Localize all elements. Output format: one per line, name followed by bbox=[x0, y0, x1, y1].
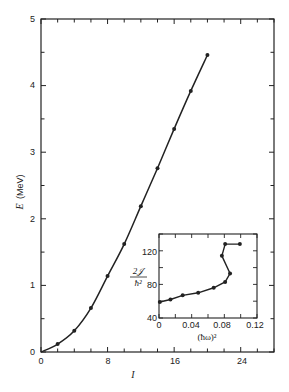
inset-x-tick-008: 0.08 bbox=[213, 320, 231, 330]
y-tick-3: 3 bbox=[30, 147, 35, 157]
inset-data-point bbox=[212, 286, 216, 290]
x-tick-0: 0 bbox=[38, 356, 43, 366]
inset-y-tick-80: 80 bbox=[147, 280, 157, 290]
main-data-point bbox=[72, 329, 76, 333]
inset-frame bbox=[159, 234, 257, 318]
chart-canvas: 0 8 16 24 0 1 2 3 4 5 I E (MeV) 0 0.04 0… bbox=[0, 0, 289, 392]
inset-y-tick-120: 120 bbox=[142, 247, 157, 257]
inset-data-point bbox=[220, 254, 224, 258]
y-tick-1: 1 bbox=[30, 280, 35, 290]
x-tick-24: 24 bbox=[237, 356, 247, 366]
y-axis-label: E (MeV) bbox=[14, 174, 25, 210]
inset-data-point bbox=[238, 242, 242, 246]
main-data-point bbox=[89, 306, 93, 310]
main-data-point bbox=[106, 274, 110, 278]
inset-data-point bbox=[158, 300, 162, 304]
main-data-point bbox=[205, 53, 209, 57]
inset-y-tick-40: 40 bbox=[147, 313, 157, 323]
inset-x-tick-012: 0.12 bbox=[246, 320, 264, 330]
x-tick-8: 8 bbox=[105, 356, 110, 366]
inset-data-point bbox=[228, 271, 232, 275]
main-data-point bbox=[189, 89, 193, 93]
main-data-point bbox=[172, 127, 176, 131]
x-tick-16: 16 bbox=[170, 356, 180, 366]
y-tick-2: 2 bbox=[30, 214, 35, 224]
main-data-point bbox=[122, 242, 126, 246]
main-data-point bbox=[56, 342, 60, 346]
inset-x-tick-0: 0 bbox=[156, 320, 161, 330]
main-data-point bbox=[139, 204, 143, 208]
y-tick-4: 4 bbox=[30, 80, 35, 90]
inset-x-tick-004: 0.04 bbox=[182, 320, 200, 330]
inset-axes bbox=[159, 234, 257, 318]
main-data-point bbox=[156, 166, 160, 170]
y-tick-0: 0 bbox=[30, 347, 35, 357]
inset-x-axis-label: (ħω)² bbox=[197, 332, 216, 342]
inset-data-point bbox=[168, 298, 172, 302]
inset-data-point bbox=[223, 242, 227, 246]
inset-y-label-den: ħ² bbox=[134, 278, 142, 288]
inset-y-label-num: 2𝒥 bbox=[133, 266, 148, 276]
x-axis-label: I bbox=[130, 369, 135, 380]
inset-data-point bbox=[181, 293, 185, 297]
inset-data-point bbox=[223, 280, 227, 284]
y-tick-5: 5 bbox=[30, 14, 35, 24]
inset-data-point bbox=[196, 291, 200, 295]
